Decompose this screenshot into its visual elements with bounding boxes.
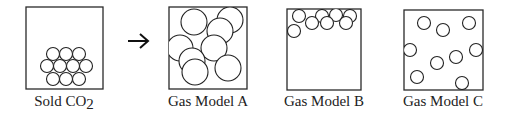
particle-circle-icon bbox=[411, 71, 424, 84]
particle-circle-icon bbox=[450, 51, 463, 64]
particle-circle-icon bbox=[60, 48, 73, 61]
particle-circle-icon bbox=[437, 24, 450, 37]
particle-circle-icon bbox=[215, 55, 241, 81]
label-gas-model-b: Gas Model B bbox=[284, 93, 364, 110]
particle-circle-icon bbox=[431, 57, 444, 70]
particle-circle-icon bbox=[73, 48, 86, 61]
particle-circle-icon bbox=[293, 10, 306, 23]
particle-circle-icon bbox=[41, 60, 54, 73]
panel-gas-model-b bbox=[287, 9, 361, 91]
label-solid-co2: Sold CO2 bbox=[34, 93, 94, 110]
panel-gas-model-c bbox=[404, 10, 484, 90]
particle-circle-icon bbox=[321, 17, 334, 30]
particle-circle-icon bbox=[404, 44, 417, 57]
particle-circle-icon bbox=[47, 73, 60, 86]
particles-solid bbox=[41, 48, 93, 86]
particle-circle-icon bbox=[60, 73, 73, 86]
panel-solid-co2 bbox=[26, 7, 103, 89]
particle-circle-icon bbox=[288, 25, 301, 38]
label-gas-model-a: Gas Model A bbox=[168, 93, 248, 110]
panel-gas-model-a bbox=[167, 7, 247, 89]
particle-circle-icon bbox=[306, 17, 319, 30]
particle-circle-icon bbox=[73, 73, 86, 86]
particle-circle-icon bbox=[470, 44, 483, 57]
particle-circle-icon bbox=[181, 9, 207, 35]
particle-circle-icon bbox=[463, 17, 476, 30]
particle-circle-icon bbox=[182, 59, 208, 85]
particle-circle-icon bbox=[456, 77, 469, 90]
particle-circle-icon bbox=[54, 60, 67, 73]
particle-circle-icon bbox=[80, 60, 93, 73]
particle-circle-icon bbox=[67, 60, 80, 73]
particle-circle-icon bbox=[418, 17, 431, 30]
transition-arrow bbox=[128, 34, 148, 48]
particle-circle-icon bbox=[47, 48, 60, 61]
label-gas-model-c: Gas Model C bbox=[403, 93, 483, 110]
particle-circle-icon bbox=[340, 17, 353, 30]
